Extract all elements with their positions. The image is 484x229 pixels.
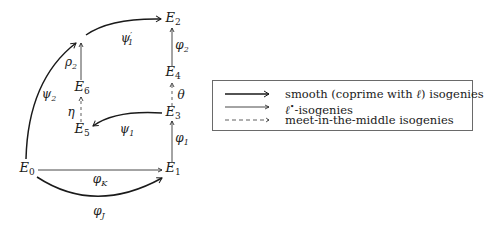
label-eta: η	[67, 106, 74, 118]
thin-arrow-icon	[223, 100, 273, 114]
label-phi-j: φJ	[93, 205, 105, 222]
label-phi-k: φK	[93, 173, 107, 190]
legend-label-mitm: meet-in-the-middle isogenies	[285, 113, 454, 127]
label-psi-1: ψ1	[120, 123, 135, 140]
legend-label-smooth: smooth (coprime with ℓ) isogenies	[285, 87, 484, 101]
label-psi-2: ψ2	[42, 88, 57, 105]
node-e3: E3	[165, 105, 180, 123]
node-e1: E1	[165, 161, 180, 179]
node-e2: E2	[165, 11, 180, 29]
label-phi-2: φ2	[175, 39, 189, 56]
node-e4: E4	[165, 65, 180, 83]
node-e0: E0	[19, 161, 34, 179]
legend-item-smooth: smooth (coprime with ℓ) isogenies	[213, 87, 472, 101]
legend: smooth (coprime with ℓ) isogenies ℓ•-iso…	[212, 80, 473, 131]
thick-arrow-icon	[223, 87, 273, 101]
node-e5: E5	[74, 122, 89, 140]
legend-item-ell-isogenies: ℓ•-isogenies	[213, 100, 472, 114]
label-psi-1-prime: ψ′1	[121, 29, 133, 49]
label-phi-1: φ1	[175, 132, 189, 149]
label-theta: θ	[177, 89, 184, 101]
dashed-arrow-icon	[223, 113, 273, 127]
label-rho-2: ρ2	[65, 56, 77, 73]
node-e6: E6	[74, 80, 89, 98]
legend-item-mitm: meet-in-the-middle isogenies	[213, 113, 472, 127]
